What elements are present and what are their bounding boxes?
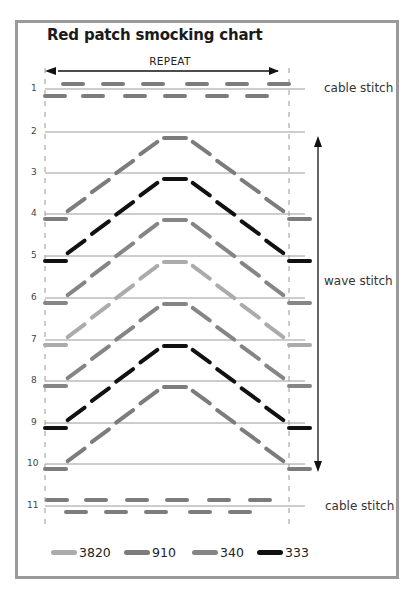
wave-left-dash [92,305,109,318]
repeat-arrow-left-head [45,67,56,75]
wave-left-dash [92,221,109,233]
row-number: 9 [31,417,37,427]
wave-right-dash [242,346,259,358]
wave-left-dash [116,161,133,173]
row-number: 2 [31,126,37,136]
wave-right-dash [217,161,234,173]
wave-right-dash [242,388,259,400]
row-number: 11 [27,500,38,510]
wave-right-dash [242,180,259,192]
wave-left-dash [116,285,133,298]
legend-item-333: 333 [257,545,309,560]
wave-left-dash [68,449,85,461]
wave-left-dash [140,183,157,195]
legend-swatch [192,550,218,555]
row-number: 3 [31,167,37,177]
wave-range-arrow-down-head [314,461,322,472]
row-number: 6 [31,292,37,302]
wave-right-dash [193,391,210,403]
wave-right-dash [193,350,210,362]
wave-left-dash [116,410,133,422]
wave-right-dash [266,324,283,337]
legend-item-910: 910 [124,545,176,560]
legend-label: 333 [285,545,309,560]
wave-left-dash [116,369,133,381]
wave-right-dash [193,266,210,279]
wave-left-dash [140,308,157,320]
legend-item-340: 340 [192,545,244,560]
wave-left-dash [68,282,85,295]
wave-left-dash [140,391,157,403]
wave-right-dash [193,308,210,320]
legend-label: 910 [152,545,176,560]
wave-right-dash [242,429,259,441]
row-number: 1 [31,83,37,93]
row-number: 5 [31,250,37,260]
smocking-diagram: 1234567891011 [0,0,413,591]
wave-right-dash [217,243,234,256]
wave-right-dash [266,199,283,211]
wave-left-dash [68,408,85,420]
wave-right-dash [266,366,283,378]
legend-label: 340 [220,545,244,560]
wave-left-dash [68,324,85,337]
row-number: 7 [31,334,37,344]
wave-right-dash [193,183,210,195]
legend-swatch [257,550,283,555]
row-number: 8 [31,375,37,385]
wave-right-dash [217,369,234,381]
legend-item-3820: 3820 [51,545,111,560]
wave-right-dash [217,202,234,214]
wave-right-dash [266,241,283,253]
legend-label: 3820 [79,545,111,560]
wave-right-dash [217,285,234,298]
wave-right-dash [266,449,283,461]
wave-right-dash [193,224,210,237]
wave-left-dash [68,366,85,378]
wave-left-dash [140,266,157,279]
wave-right-dash [217,410,234,422]
legend-swatch [124,550,150,555]
wave-right-dash [266,408,283,420]
legend-swatch [51,550,77,555]
wave-left-dash [140,224,157,237]
wave-right-dash [217,327,234,339]
wave-left-dash [92,263,109,276]
wave-left-dash [68,199,85,211]
row-number: 4 [31,208,37,218]
wave-left-dash [92,429,109,441]
wave-left-dash [92,346,109,358]
wave-left-dash [92,180,109,192]
wave-right-dash [242,305,259,318]
wave-range-arrow-up-head [314,136,322,147]
wave-left-dash [116,327,133,339]
wave-right-dash [193,142,210,154]
wave-left-dash [116,202,133,214]
wave-left-dash [92,388,109,400]
wave-left-dash [116,243,133,256]
wave-right-dash [242,263,259,276]
wave-right-dash [242,221,259,233]
wave-left-dash [68,241,85,253]
wave-right-dash [266,282,283,295]
wave-left-dash [140,142,157,154]
row-number: 10 [27,458,39,468]
wave-left-dash [140,350,157,362]
